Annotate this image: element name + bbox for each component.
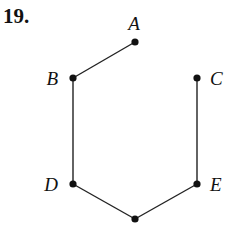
node-label-C: C xyxy=(210,68,223,89)
node-A xyxy=(131,38,138,45)
node-D xyxy=(69,180,76,187)
node-label-A: A xyxy=(126,13,140,34)
edge-F-E xyxy=(135,184,197,219)
edge-A-B xyxy=(73,42,135,78)
node-label-B: B xyxy=(46,68,58,89)
node-E xyxy=(193,180,200,187)
node-label-E: E xyxy=(209,174,222,195)
node-bottom xyxy=(131,215,138,222)
edge-D-F xyxy=(73,184,135,219)
node-label-D: D xyxy=(43,174,58,195)
node-B xyxy=(69,74,76,81)
node-C xyxy=(193,74,200,81)
hasse-diagram: ABCDE xyxy=(0,0,229,227)
